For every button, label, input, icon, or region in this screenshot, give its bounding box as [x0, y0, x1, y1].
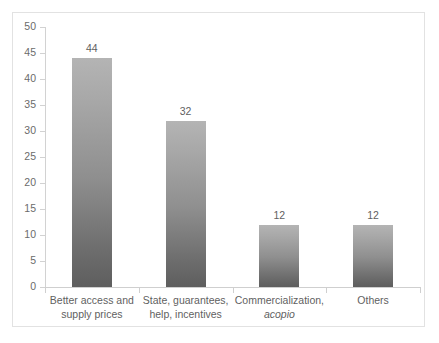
bar-chart: 05101520253035404550 44321212 Better acc… — [0, 0, 439, 343]
bar[interactable] — [353, 225, 393, 287]
y-axis-tick-label-text: 0 — [10, 281, 36, 292]
x-axis-tick — [326, 288, 327, 293]
y-axis-tick-label: 25 — [8, 151, 36, 162]
category-label-line: Commercialization, — [233, 294, 327, 308]
bar[interactable] — [72, 58, 112, 287]
category-label: Commercialization,acopio — [233, 294, 327, 321]
bar-value-label: 44 — [62, 42, 122, 54]
category-label: Others — [326, 294, 420, 308]
y-axis-tick-label: 35 — [8, 99, 36, 110]
y-axis-tick-label: 20 — [8, 177, 36, 188]
y-axis-tick-label-text: 45 — [10, 47, 36, 58]
bar-value-label: 32 — [156, 105, 216, 117]
category-label-line: help, incentives — [139, 308, 233, 322]
category-label-line: supply prices — [45, 308, 139, 322]
y-axis-tick-label-text: 15 — [10, 203, 36, 214]
y-axis-tick-label: 10 — [8, 229, 36, 240]
y-axis-tick-label-text: 35 — [10, 99, 36, 110]
category-label-line: Better access and — [45, 294, 139, 308]
y-axis-tick-label-text: 5 — [10, 255, 36, 266]
bar[interactable] — [166, 121, 206, 287]
y-axis-tick-label: 45 — [8, 47, 36, 58]
bar[interactable] — [259, 225, 299, 287]
y-axis-tick-label: 15 — [8, 203, 36, 214]
y-axis-tick-label: 5 — [8, 255, 36, 266]
category-label-line: Others — [326, 294, 420, 308]
y-axis-tick-label-text: 50 — [10, 21, 36, 32]
y-axis-tick-label: 50 — [8, 21, 36, 32]
x-axis-tick — [45, 288, 46, 293]
bar-value-label: 12 — [249, 209, 309, 221]
y-axis-tick-label-text: 25 — [10, 151, 36, 162]
x-axis-tick — [233, 288, 234, 293]
category-label: State, guarantees,help, incentives — [139, 294, 233, 321]
y-axis-tick-label-text: 10 — [10, 229, 36, 240]
bar-value-label: 12 — [343, 209, 403, 221]
y-axis-tick-label: 30 — [8, 125, 36, 136]
category-label-line: acopio — [233, 308, 327, 322]
x-axis-tick — [420, 288, 421, 293]
y-axis-tick-label: 40 — [8, 73, 36, 84]
y-axis-tick-label-text: 40 — [10, 73, 36, 84]
y-axis-tick-label-text: 20 — [10, 177, 36, 188]
plot-area — [45, 27, 420, 287]
y-axis-tick-label-text: 30 — [10, 125, 36, 136]
y-axis-tick-label: 0 — [8, 281, 36, 292]
x-axis-tick — [139, 288, 140, 293]
category-label: Better access andsupply prices — [45, 294, 139, 321]
category-label-line: State, guarantees, — [139, 294, 233, 308]
